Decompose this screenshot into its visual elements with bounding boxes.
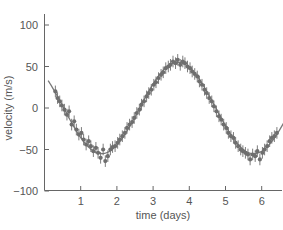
data-point xyxy=(214,109,218,113)
data-point xyxy=(219,118,223,122)
data-point xyxy=(258,157,262,161)
data-point xyxy=(139,103,143,107)
data-point xyxy=(103,159,107,163)
data-point xyxy=(197,79,201,83)
data-point xyxy=(205,91,209,95)
data-point xyxy=(89,144,93,148)
data-point xyxy=(195,74,199,78)
data-point xyxy=(130,120,134,124)
data-point xyxy=(101,147,105,151)
data-point xyxy=(91,149,95,153)
data-point xyxy=(149,88,153,92)
data-point xyxy=(87,139,91,143)
data-point xyxy=(147,91,151,95)
data-point xyxy=(137,108,141,112)
x-tick-label: 6 xyxy=(259,195,265,207)
data-point xyxy=(236,144,240,148)
data-point xyxy=(178,63,182,67)
x-tick-label: 4 xyxy=(186,195,192,207)
x-tick-label: 1 xyxy=(78,195,84,207)
x-tick-label: 5 xyxy=(222,195,228,207)
data-point xyxy=(94,146,98,150)
x-tick-label: 2 xyxy=(114,195,120,207)
data-point xyxy=(168,63,172,67)
y-tick-label: 100 xyxy=(20,19,38,31)
data-point xyxy=(74,127,78,131)
y-tick-label: −50 xyxy=(19,144,38,156)
data-point xyxy=(113,144,117,148)
data-point xyxy=(255,149,259,153)
data-point xyxy=(132,116,136,120)
data-point xyxy=(265,144,269,148)
data-point xyxy=(161,70,165,74)
data-point xyxy=(176,58,180,62)
data-point xyxy=(67,109,71,113)
data-point xyxy=(72,119,76,123)
data-point xyxy=(96,151,100,155)
y-tick-label: 50 xyxy=(26,61,38,73)
data-point xyxy=(154,80,158,84)
data-point xyxy=(231,136,235,140)
data-point xyxy=(81,137,85,141)
y-tick-label: 0 xyxy=(32,102,38,114)
data-point xyxy=(272,134,276,138)
data-point xyxy=(120,134,124,138)
y-ticks: −100−50050100 xyxy=(13,19,49,197)
data-point xyxy=(222,123,226,127)
y-tick-label: −100 xyxy=(13,185,38,197)
radial-velocity-chart: −100−50050100 123456 time (days) velocit… xyxy=(0,0,283,230)
data-point xyxy=(210,99,214,103)
data-points xyxy=(53,54,279,167)
data-point xyxy=(234,141,238,145)
data-point xyxy=(125,126,129,130)
data-point xyxy=(123,131,127,135)
data-point xyxy=(207,96,211,100)
data-point xyxy=(275,131,279,135)
data-point xyxy=(183,61,187,65)
x-axis-label: time (days) xyxy=(136,209,190,221)
data-point xyxy=(84,142,88,146)
data-point xyxy=(106,154,110,158)
axes: −100−50050100 123456 xyxy=(13,14,282,207)
data-point xyxy=(79,131,83,135)
data-point xyxy=(70,123,74,127)
x-tick-label: 3 xyxy=(150,195,156,207)
data-point xyxy=(224,126,228,130)
data-point xyxy=(200,83,204,87)
data-point xyxy=(60,103,64,107)
x-ticks: 123456 xyxy=(78,186,265,207)
data-point xyxy=(58,99,62,103)
data-point xyxy=(248,157,252,161)
data-point xyxy=(142,99,146,103)
y-axis-label: velocity (m/s) xyxy=(2,76,14,141)
data-point xyxy=(253,154,257,158)
data-point xyxy=(262,147,266,151)
data-point xyxy=(99,156,103,160)
data-point xyxy=(135,111,139,115)
data-point xyxy=(246,152,250,156)
data-point xyxy=(53,89,57,93)
data-point xyxy=(156,76,160,80)
data-point xyxy=(212,104,216,108)
data-point xyxy=(118,137,122,141)
data-point xyxy=(62,108,66,112)
data-point xyxy=(226,131,230,135)
